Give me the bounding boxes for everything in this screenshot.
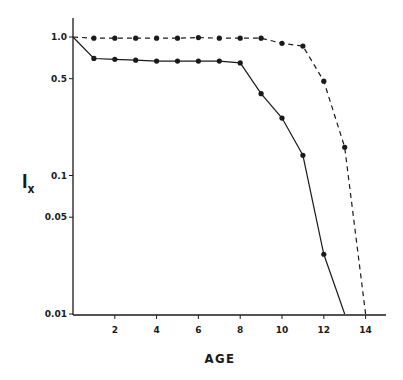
survivorship-chart: 1.00.50.10.050.01 2468101214 lx AGE — [0, 0, 403, 380]
x-axis-ticks: 2468101214 — [112, 315, 372, 335]
data-point — [238, 36, 243, 41]
x-tick-label: 12 — [318, 325, 331, 335]
x-axis-title: AGE — [204, 351, 235, 366]
data-point — [217, 58, 222, 63]
data-point — [321, 79, 326, 84]
data-point — [112, 57, 117, 62]
series-dashed — [73, 35, 366, 314]
data-point — [91, 36, 96, 41]
data-point — [175, 36, 180, 41]
data-point — [154, 58, 159, 63]
data-point — [259, 36, 264, 41]
data-series — [73, 35, 366, 314]
data-point — [133, 36, 138, 41]
data-point — [196, 35, 201, 40]
data-point — [217, 36, 222, 41]
x-tick-label: 8 — [237, 325, 243, 335]
x-tick-label: 14 — [359, 325, 372, 335]
data-point — [259, 91, 264, 96]
data-point — [133, 58, 138, 63]
data-point — [300, 43, 305, 48]
x-tick-label: 10 — [276, 325, 289, 335]
data-point — [279, 115, 284, 120]
x-tick-label: 2 — [112, 325, 118, 335]
data-point — [279, 41, 284, 46]
series-line-solid — [73, 37, 345, 314]
data-point — [300, 153, 305, 158]
y-tick-label: 0.1 — [51, 171, 67, 181]
series-line-dashed — [73, 37, 366, 314]
x-tick-label: 6 — [195, 325, 201, 335]
data-point — [196, 58, 201, 63]
y-tick-label: 0.01 — [45, 309, 67, 319]
data-point — [112, 36, 117, 41]
y-tick-label: 0.05 — [45, 212, 67, 222]
data-point — [91, 56, 96, 61]
data-point — [238, 60, 243, 65]
y-axis-title: lx — [22, 171, 35, 196]
data-point — [154, 36, 159, 41]
series-solid — [73, 37, 345, 314]
data-point — [175, 58, 180, 63]
data-point — [342, 145, 347, 150]
x-tick-label: 4 — [153, 325, 159, 335]
y-axis-ticks: 1.00.50.10.050.01 — [45, 32, 73, 319]
data-point — [321, 252, 326, 257]
y-tick-label: 0.5 — [51, 74, 67, 84]
y-tick-label: 1.0 — [51, 32, 67, 42]
